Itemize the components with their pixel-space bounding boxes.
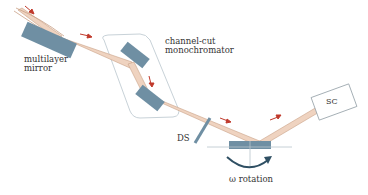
ds-label: DS (177, 133, 190, 143)
diagram-canvas: multilayer mirror channel-cut monochroma… (0, 0, 368, 195)
mono-crystal-2 (135, 85, 164, 112)
multilayer-mirror-label-line2: mirror (24, 63, 53, 73)
beam-path (18, 8, 326, 146)
sc-label: SC (326, 97, 338, 106)
divergence-slit (195, 118, 210, 143)
channel-cut-label-line2: monochromator (165, 45, 235, 55)
omega-rotation-arrow (227, 157, 268, 167)
omega-rotation-label: ω rotation (229, 174, 274, 184)
